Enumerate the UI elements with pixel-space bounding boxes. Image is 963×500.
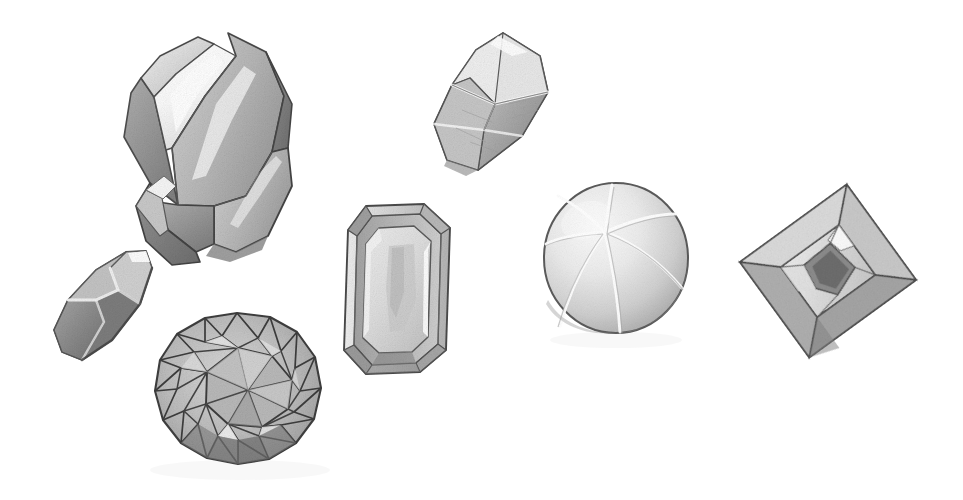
illustration-caption: Assorted Gemstone and Crystal Cuts	[0, 487, 963, 498]
object-round-brilliant-gem	[155, 313, 321, 464]
object-emerald-cut-gem	[344, 204, 450, 374]
illustration-canvas: Assorted Gemstone and Crystal Cuts	[0, 0, 963, 500]
object-quartz-crystal	[124, 33, 292, 265]
object-cabochon-sphere	[544, 183, 688, 333]
gemstone-illustration: Assorted Gemstone and Crystal Cuts	[0, 0, 963, 500]
